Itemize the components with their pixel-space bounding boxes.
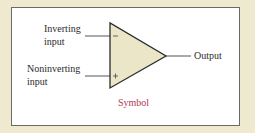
noninverting-input-label-line1: Noninverting: [27, 63, 80, 75]
inverting-input-label-line1: Inverting: [44, 23, 81, 35]
inverting-input-label-line2: input: [44, 36, 65, 48]
symbol-caption: Symbol: [118, 97, 149, 109]
noninverting-input-label-line2: input: [27, 76, 48, 88]
output-label: Output: [194, 50, 222, 62]
op-amp-triangle-icon: [110, 23, 166, 88]
